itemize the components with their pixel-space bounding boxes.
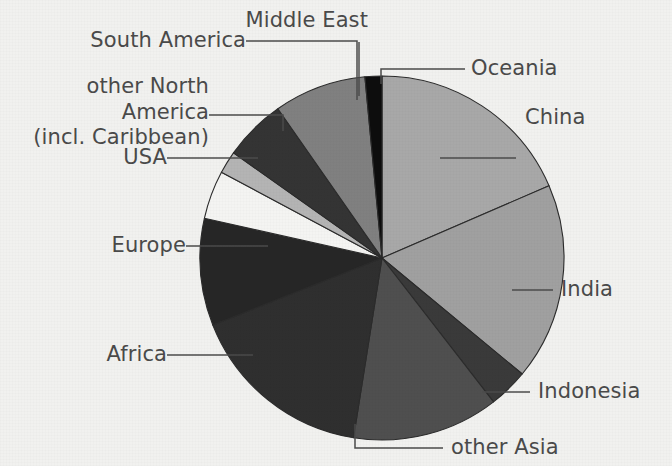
pie-label-middle-east: Middle East (196, 8, 368, 34)
pie-label-usa: USA (0, 145, 167, 171)
pie-label-china: China (525, 105, 586, 131)
pie-label-europe: Europe (0, 233, 186, 259)
pie-label-africa: Africa (0, 342, 167, 368)
pie-slices-group (200, 76, 564, 440)
pie-chart-figure: South America other North America (incl.… (0, 0, 672, 466)
pie-label-other-north-america: other North America (incl. Caribbean) (0, 74, 209, 151)
pie-label-india: India (561, 277, 613, 303)
pie-label-oceania: Oceania (471, 56, 558, 82)
pie-label-other-asia: other Asia (451, 435, 559, 461)
pie-label-indonesia: Indonesia (538, 379, 640, 405)
pie-label-other-north-america-line1: other North America (87, 74, 209, 124)
